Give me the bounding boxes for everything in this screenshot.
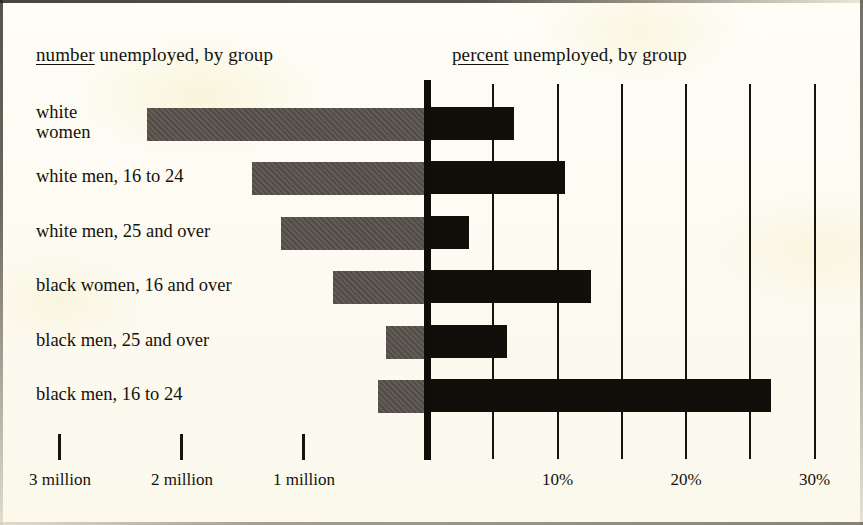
bar-number-unemployed xyxy=(147,108,424,141)
left-tick-1m xyxy=(302,434,305,460)
category-label: black women, 16 and over xyxy=(36,275,232,295)
right-tick-label: 30% xyxy=(799,470,830,490)
category-label: white men, 25 and over xyxy=(36,221,210,241)
page-edge-top xyxy=(0,0,863,3)
category-label: white women xyxy=(36,102,90,142)
category-label: white men, 16 to 24 xyxy=(36,166,183,186)
left-title-lead: number xyxy=(36,44,95,65)
left-tick-2m xyxy=(180,434,183,460)
left-tick-label: 1 million xyxy=(273,470,335,490)
category-label: black men, 16 to 24 xyxy=(36,384,182,404)
left-tick-label: 3 million xyxy=(29,470,91,490)
right-tick-label: 20% xyxy=(670,470,701,490)
zero-baseline-axis xyxy=(424,80,431,460)
bar-number-unemployed xyxy=(252,162,424,195)
category-label: black men, 25 and over xyxy=(36,330,209,350)
right-title-rest: unemployed, by group xyxy=(509,44,687,65)
bar-number-unemployed xyxy=(281,217,424,250)
right-tick-label: 10% xyxy=(542,470,573,490)
right-chart-title: percent unemployed, by group xyxy=(452,44,687,66)
left-tick-3m xyxy=(58,434,61,460)
bar-number-unemployed xyxy=(386,326,424,359)
bar-percent-unemployed xyxy=(424,107,514,140)
bar-percent-unemployed xyxy=(424,325,507,358)
left-title-rest: unemployed, by group xyxy=(95,44,273,65)
left-chart-title: number unemployed, by group xyxy=(36,44,273,66)
bar-number-unemployed xyxy=(333,271,425,304)
chart-page: number unemployed, by group percent unem… xyxy=(0,0,863,525)
right-title-lead: percent xyxy=(452,44,509,65)
bar-percent-unemployed xyxy=(424,379,771,412)
left-tick-label: 2 million xyxy=(151,470,213,490)
bar-row xyxy=(0,107,863,141)
bar-number-unemployed xyxy=(378,380,424,413)
bar-percent-unemployed xyxy=(424,161,565,194)
bar-percent-unemployed xyxy=(424,270,591,303)
